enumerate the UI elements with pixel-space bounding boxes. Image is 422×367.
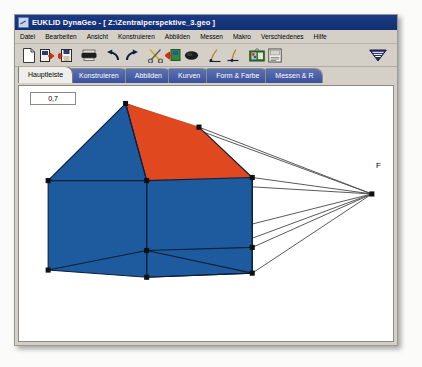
eraser-icon[interactable]: [182, 46, 200, 64]
menu-item-bearbeiten[interactable]: Bearbeiten: [44, 30, 77, 43]
tab-konstruieren[interactable]: Konstruieren: [69, 68, 129, 83]
window-title: EUKLID DynaGeo - [ Z:\Zentralperspektive…: [32, 15, 215, 30]
new-document-icon[interactable]: [20, 46, 38, 64]
cut-scissors-icon[interactable]: [146, 46, 164, 64]
save-document-icon[interactable]: [56, 46, 74, 64]
open-document-icon[interactable]: [38, 46, 56, 64]
title-bar: EUKLID DynaGeo - [ Z:\Zentralperspektive…: [15, 15, 397, 30]
menu-item-abbilden[interactable]: Abbilden: [164, 30, 191, 43]
menu-bar[interactable]: Datei Bearbeiten Ansicht Konstruieren Ab…: [15, 30, 397, 44]
draw-line-icon[interactable]: [224, 46, 242, 64]
parameter-value-text: 0,7: [48, 93, 58, 104]
geometry-canvas[interactable]: 0,7 F: [18, 85, 394, 342]
menu-item-verschiedenes[interactable]: Verschiedenes: [260, 30, 305, 43]
menu-item-konstruieren[interactable]: Konstruieren: [117, 30, 156, 43]
point-label-F: F: [376, 162, 381, 170]
tab-kurven[interactable]: Kurven: [168, 68, 210, 83]
application-window: EUKLID DynaGeo - [ Z:\Zentralperspektive…: [14, 14, 398, 346]
text-label-icon[interactable]: [266, 46, 284, 64]
undo-icon[interactable]: [104, 46, 122, 64]
tab-hauptleiste[interactable]: Hauptleiste: [18, 67, 73, 83]
parameter-value-box[interactable]: 0,7: [30, 92, 76, 105]
paste-clipboard-icon[interactable]: [164, 46, 182, 64]
wall-front-gable: [48, 103, 147, 277]
draw-point-icon[interactable]: [206, 46, 224, 64]
screenshot-page: EUKLID DynaGeo - [ Z:\Zentralperspektive…: [0, 0, 422, 367]
menu-item-makro[interactable]: Makro: [232, 30, 252, 43]
redo-icon[interactable]: [122, 46, 140, 64]
tab-form-farbe[interactable]: Form & Farbe: [206, 68, 269, 83]
toolbar: [15, 44, 397, 67]
tab-strip: Hauptleiste Konstruieren Abbilden Kurven…: [15, 67, 397, 83]
euklid-app-icon: [18, 17, 29, 28]
roof-face-red: [126, 103, 253, 180]
menu-item-messen[interactable]: Messen: [199, 30, 224, 43]
canvas-container: 0,7 F: [15, 83, 397, 345]
print-icon[interactable]: [80, 46, 98, 64]
perspective-house-figure: [19, 86, 393, 341]
menu-item-hilfe[interactable]: Hilfe: [313, 30, 328, 43]
dynageo-logo-icon[interactable]: [369, 46, 387, 64]
tab-messen-r[interactable]: Messen & R: [265, 68, 323, 83]
tab-abbilden[interactable]: Abbilden: [125, 68, 172, 83]
menu-item-datei[interactable]: Datei: [19, 30, 36, 43]
menu-item-ansicht[interactable]: Ansicht: [86, 30, 109, 43]
color-palette-icon[interactable]: [248, 46, 266, 64]
